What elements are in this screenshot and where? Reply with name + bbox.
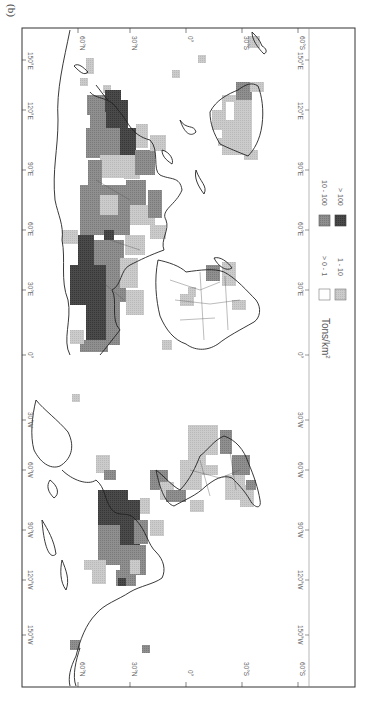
svg-text:30°N: 30°N <box>131 36 138 51</box>
svg-text:30°W: 30°W <box>27 412 34 429</box>
svg-text:30°S: 30°S <box>243 36 250 51</box>
svg-text:60°S: 60°S <box>299 662 306 677</box>
emission-cells-western-hemisphere <box>70 394 256 653</box>
svg-text:150°E: 150°E <box>297 52 304 70</box>
svg-text:1 - 10: 1 - 10 <box>337 258 344 276</box>
svg-text:10 - 100: 10 - 100 <box>321 180 328 206</box>
legend-swatch-10-100 <box>319 215 330 226</box>
emission-map-figure: (b) <box>0 0 372 701</box>
svg-text:30°W: 30°W <box>297 412 304 429</box>
svg-text:150°W: 150°W <box>297 625 304 645</box>
svg-text:30°S: 30°S <box>243 662 250 677</box>
svg-text:> 100: > 100 <box>337 188 344 206</box>
svg-text:30°N: 30°N <box>131 662 138 677</box>
svg-text:60°E: 60°E <box>27 222 34 237</box>
svg-text:90°W: 90°W <box>27 522 34 539</box>
svg-text:150°E: 150°E <box>27 52 34 70</box>
svg-text:0°: 0° <box>187 36 194 43</box>
longitude-axis-left: 150°E 120°E 90°E 60°E 30°E 0° 30°W 60°W … <box>22 52 34 645</box>
latitude-axis-bottom: 60°N 30°N 0° 30°S 60°S <box>78 662 306 687</box>
legend: Tons/km2 > 0 - 1 1 - 10 10 - 100 > 100 <box>319 180 346 359</box>
svg-text:120°W: 120°W <box>27 570 34 590</box>
svg-text:90°W: 90°W <box>297 522 304 539</box>
emission-cells-eastern-hemisphere <box>62 36 264 352</box>
svg-text:60°W: 60°W <box>27 462 34 479</box>
svg-text:90°E: 90°E <box>297 162 304 177</box>
legend-swatch-1-10 <box>335 289 346 300</box>
longitude-axis-right: 150°E 120°E 90°E 60°E 30°E 0° 30°W 60°W … <box>297 52 309 645</box>
svg-text:120°W: 120°W <box>297 570 304 590</box>
svg-text:0°: 0° <box>27 352 34 359</box>
svg-text:0°: 0° <box>297 352 304 359</box>
svg-text:150°W: 150°W <box>27 625 34 645</box>
svg-text:90°E: 90°E <box>27 162 34 177</box>
legend-swatch-gt100 <box>335 215 346 226</box>
svg-text:60°E: 60°E <box>297 222 304 237</box>
svg-text:30°E: 30°E <box>297 282 304 297</box>
legend-swatch-0-1 <box>319 289 330 300</box>
svg-text:> 0 - 1: > 0 - 1 <box>321 256 328 276</box>
svg-text:60°N: 60°N <box>79 36 86 51</box>
svg-text:0°: 0° <box>187 670 194 677</box>
svg-text:60°N: 60°N <box>79 662 86 677</box>
legend-title: Tons/km2 <box>320 318 331 359</box>
world-map: 60°N 30°N 0° 30°S 60°S 60°N 30°N 0° 30°S… <box>0 0 372 701</box>
svg-text:120°E: 120°E <box>297 102 304 120</box>
svg-text:30°E: 30°E <box>27 282 34 297</box>
svg-text:60°S: 60°S <box>299 36 306 51</box>
svg-text:60°W: 60°W <box>297 462 304 479</box>
svg-text:120°E: 120°E <box>27 102 34 120</box>
panel-label: (b) <box>6 4 18 17</box>
latitude-axis-top: 60°N 30°N 0° 30°S 60°S <box>78 28 306 51</box>
